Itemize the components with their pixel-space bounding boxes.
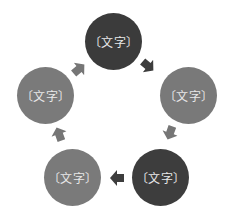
node-top: 〔文字〕 xyxy=(85,13,142,70)
node-bottom-right: 〔文字〕 xyxy=(132,149,189,206)
arrow-bottom-right-to-bottom-left-icon xyxy=(109,170,125,186)
node-right: 〔文字〕 xyxy=(160,67,217,124)
node-label: 〔文字〕 xyxy=(136,169,186,186)
node-label: 〔文字〕 xyxy=(164,87,214,104)
arrow-right-to-bottom-right-icon xyxy=(160,123,181,144)
arrow-left-to-top-icon xyxy=(68,58,91,81)
node-label: 〔文字〕 xyxy=(21,87,71,104)
node-left: 〔文字〕 xyxy=(17,67,74,124)
node-bottom-left: 〔文字〕 xyxy=(44,149,101,206)
node-label: 〔文字〕 xyxy=(89,33,139,50)
arrow-bottom-left-to-left-icon xyxy=(49,124,70,145)
arrow-top-to-right-icon xyxy=(137,55,160,78)
node-label: 〔文字〕 xyxy=(48,169,98,186)
